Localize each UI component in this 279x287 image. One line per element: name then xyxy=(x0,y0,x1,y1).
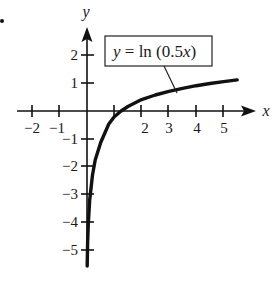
y-tick-label: −3 xyxy=(62,186,78,202)
x-tick-label: −2 xyxy=(24,120,40,136)
x-tick-label: 2 xyxy=(141,120,149,136)
x-axis-label: x xyxy=(261,102,269,119)
function-graph: −2 −1 2 3 4 5 2 1 −1 −2 −3 −4 −5 y x y =… xyxy=(0,0,279,287)
y-tick-label: 2 xyxy=(71,47,79,63)
leader-line xyxy=(164,66,177,93)
y-tick-label: −4 xyxy=(62,214,78,230)
function-curve xyxy=(87,80,237,266)
y-tick-label: 1 xyxy=(71,75,79,91)
y-tick-labels: 2 1 −1 −2 −3 −4 −5 xyxy=(62,47,78,258)
equation-label: y = ln (0.5x) xyxy=(111,42,196,61)
x-tick-label: 3 xyxy=(165,120,173,136)
bullet-marker xyxy=(0,19,4,23)
y-tick-label: −5 xyxy=(62,242,78,258)
y-tick-label: −2 xyxy=(62,158,78,174)
x-tick-labels: −2 −1 2 3 4 5 xyxy=(24,120,228,136)
x-tick-label: 4 xyxy=(193,120,201,136)
y-tick-label: −1 xyxy=(62,131,78,147)
x-tick-label: 5 xyxy=(220,120,228,136)
y-axis-label: y xyxy=(80,3,90,21)
